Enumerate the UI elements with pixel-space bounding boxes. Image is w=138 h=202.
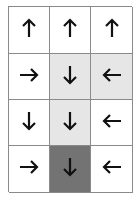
grid-cell-r1-c0: [9, 54, 50, 100]
arrow-left-icon: [101, 64, 123, 86]
policy-grid: [8, 6, 132, 192]
grid-cell-r3-c1: [50, 146, 91, 193]
grid-cell-r1-c2: [91, 54, 133, 100]
grid-cell-r2-c0: [9, 100, 50, 146]
arrow-down-icon: [59, 110, 81, 132]
arrow-up-icon: [101, 17, 123, 39]
grid-cell-r0-c2: [91, 7, 133, 54]
arrow-right-icon: [18, 64, 40, 86]
arrow-left-icon: [101, 110, 123, 132]
grid-cell-r0-c0: [9, 7, 50, 54]
arrow-up-icon: [18, 17, 40, 39]
grid-cell-r3-c2: [91, 146, 133, 193]
grid-cell-r2-c2: [91, 100, 133, 146]
arrow-left-icon: [101, 156, 123, 178]
arrow-down-icon: [59, 64, 81, 86]
grid-cell-r3-c0: [9, 146, 50, 193]
grid-cell-r2-c1: [50, 100, 91, 146]
grid-cell-r1-c1: [50, 54, 91, 100]
arrow-up-icon: [59, 17, 81, 39]
grid-cell-r0-c1: [50, 7, 91, 54]
arrow-down-icon: [18, 110, 40, 132]
arrow-right-icon: [18, 156, 40, 178]
arrow-down-icon: [59, 156, 81, 178]
